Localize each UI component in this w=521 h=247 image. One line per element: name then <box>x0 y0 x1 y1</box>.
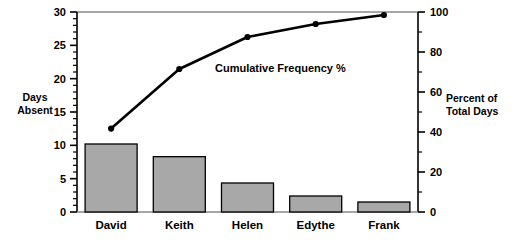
bar <box>153 157 205 212</box>
category-label: Edythe <box>297 219 335 231</box>
right-axis-title-line2: Total Days <box>446 105 498 117</box>
category-label: Keith <box>165 219 194 231</box>
data-point-marker <box>244 34 250 40</box>
data-point-marker <box>381 12 387 18</box>
left-tick-label: 10 <box>54 139 66 151</box>
right-tick-label: 60 <box>430 86 442 98</box>
bar <box>290 196 342 212</box>
left-tick-label: 30 <box>54 6 66 18</box>
cumulative-frequency-annotation: Cumulative Frequency % <box>215 62 346 74</box>
left-axis-title-line1: Days <box>22 91 47 103</box>
right-tick-label: 40 <box>430 126 442 138</box>
right-tick-label: 80 <box>430 46 442 58</box>
chart-svg: 051015202530 020406080100 DavidKeithHele… <box>0 0 521 247</box>
left-tick-label: 5 <box>60 173 66 185</box>
right-tick-label: 0 <box>430 206 436 218</box>
data-point-marker <box>176 66 182 72</box>
bar <box>85 144 137 212</box>
left-tick-label: 0 <box>60 206 66 218</box>
category-label: Frank <box>368 219 400 231</box>
data-point-marker <box>313 21 319 27</box>
data-point-marker <box>108 126 114 132</box>
left-tick-label: 25 <box>54 39 66 51</box>
right-tick-label: 100 <box>430 6 448 18</box>
left-tick-label: 20 <box>54 73 66 85</box>
category-label: David <box>95 219 126 231</box>
bar <box>222 183 274 212</box>
category-label: Helen <box>232 219 263 231</box>
right-tick-label: 20 <box>430 166 442 178</box>
left-axis-title-line2: Absent <box>17 104 53 116</box>
bar <box>358 202 410 212</box>
right-axis-title-line1: Percent of <box>446 92 498 104</box>
left-tick-label: 15 <box>54 106 66 118</box>
pareto-chart: 051015202530 020406080100 DavidKeithHele… <box>0 0 521 247</box>
